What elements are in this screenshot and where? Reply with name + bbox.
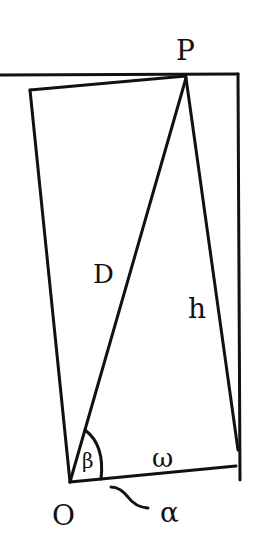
side-h-line — [186, 78, 238, 450]
right-vertical-line — [238, 74, 240, 480]
label-P: P — [176, 34, 195, 67]
label-O: O — [52, 499, 75, 532]
label-beta: β — [82, 449, 94, 473]
horizontal-top-line — [0, 74, 238, 75]
tilted-rect-left-edge — [30, 90, 70, 482]
label-alpha: α — [160, 496, 179, 529]
diagonal-D-line — [70, 78, 186, 482]
label-h: h — [188, 292, 206, 325]
tilde-stroke — [111, 487, 148, 508]
label-w: ω — [152, 443, 173, 473]
label-D: D — [93, 259, 114, 289]
geometry-diagram: P O D h ω β α — [0, 0, 275, 552]
tilted-rect-top-edge — [30, 76, 186, 90]
